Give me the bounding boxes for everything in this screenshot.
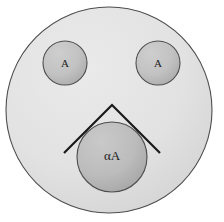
left-eye-circle-group: A: [43, 41, 87, 85]
left-eye-label: A: [61, 57, 69, 69]
right-eye-circle-group: A: [136, 41, 180, 85]
diagram-canvas: A A αA: [0, 0, 224, 222]
figure-root: A A αA: [0, 0, 224, 222]
right-eye-label: A: [154, 57, 162, 69]
mouth-circle-label: αA: [104, 148, 121, 163]
mouth-circle-group: αA: [77, 122, 147, 192]
